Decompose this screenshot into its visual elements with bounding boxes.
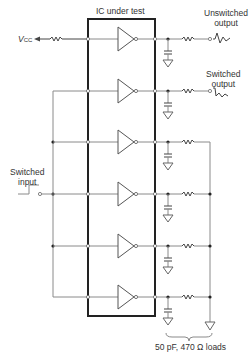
buffer-row-1 <box>86 27 208 67</box>
switched-output-terminal <box>208 88 228 97</box>
ground-symbol-icon <box>163 215 173 222</box>
switched-output-line1: Switched <box>206 69 241 79</box>
pin-in <box>86 37 89 40</box>
buffer-gate-icon <box>118 234 134 258</box>
ground-symbol-icon <box>163 60 173 67</box>
unswitched-output-label: Unswitchedoutput <box>204 8 248 28</box>
switched-output-label: Switchedoutput <box>206 69 241 89</box>
ground-symbol-icon <box>163 112 173 119</box>
pin-in <box>86 89 89 92</box>
vcc-connection <box>34 37 88 42</box>
capacitor-icon <box>163 39 173 67</box>
buffer-row-2 <box>53 79 208 119</box>
switched-input-label: Switchedinput <box>10 167 45 187</box>
capacitor-icon <box>163 246 173 274</box>
buffer-row-6 <box>53 285 210 325</box>
buffer-gate-icon <box>118 79 134 103</box>
capacitor-icon <box>163 142 173 170</box>
unswitched-label-line1: Unswitched <box>204 8 248 18</box>
pin-out <box>153 244 156 247</box>
buffer-row-5 <box>53 234 210 274</box>
buffer-gate-icon <box>118 130 134 154</box>
capacitor-icon <box>163 297 173 325</box>
loads-label: 50 pF, 470 Ω loads <box>155 342 226 352</box>
pin-in <box>86 244 89 247</box>
unswitched-label-line2: output <box>204 18 248 28</box>
pin-out <box>153 192 156 195</box>
buffer-row-4 <box>53 182 210 222</box>
switched-output-line2: output <box>206 79 241 89</box>
buffer-gate-icon <box>118 182 134 206</box>
ground-symbol-icon <box>163 163 173 170</box>
resistor-icon <box>182 192 194 196</box>
pin-in <box>86 192 89 195</box>
resistor-icon <box>182 89 194 93</box>
ground-symbol-icon <box>163 267 173 274</box>
buffer-gate-icon <box>118 285 134 309</box>
pin-in <box>86 140 89 143</box>
unswitched-output-terminal <box>208 33 230 43</box>
resistor-icon <box>182 244 194 248</box>
buffer-row-3 <box>53 130 210 170</box>
capacitor-icon <box>163 91 173 119</box>
capacitor-icon <box>163 194 173 222</box>
pin-in <box>86 295 89 298</box>
vcc-sub: CC <box>24 37 33 43</box>
ground-symbol-icon <box>163 318 173 325</box>
pin-out <box>153 295 156 298</box>
ground-symbol-icon <box>205 322 215 330</box>
pin-out <box>153 140 156 143</box>
switched-input-line1: Switched <box>10 167 45 177</box>
ic-title: IC under test <box>96 6 145 16</box>
pin-out <box>153 89 156 92</box>
resistor-icon <box>182 140 194 144</box>
switched-input-line2: input <box>10 177 45 187</box>
ic-package-outline <box>88 19 155 316</box>
vcc-label: VCC <box>18 34 32 45</box>
pin-out <box>153 37 156 40</box>
loads-bracket <box>166 333 212 341</box>
resistor-icon <box>182 295 194 299</box>
buffer-gate-icon <box>118 27 134 51</box>
resistor-icon <box>182 37 194 41</box>
